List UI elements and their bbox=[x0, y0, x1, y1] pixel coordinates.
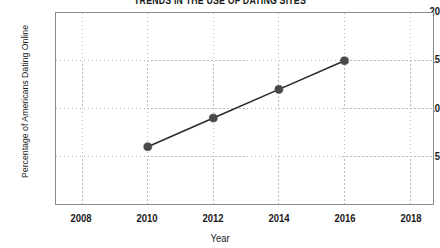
x-axis-tick-2010: 2010 bbox=[121, 212, 173, 224]
x-axis-label: Year bbox=[22, 232, 418, 244]
chart-figure: TRENDS IN THE USE OF DATING SITES Percen… bbox=[0, 0, 440, 248]
x-axis-tick-2016: 2016 bbox=[319, 212, 371, 224]
x-axis-tick-2018: 2018 bbox=[385, 212, 437, 224]
x-axis-tick-2008: 2008 bbox=[56, 212, 108, 224]
plot-area bbox=[55, 12, 434, 205]
x-axis-tick-2012: 2012 bbox=[187, 212, 239, 224]
x-axis-tick-2014: 2014 bbox=[253, 212, 305, 224]
data-series bbox=[56, 13, 433, 204]
y-axis-label: Percentage of Americans Dating Online bbox=[19, 9, 30, 193]
chart-title: TRENDS IN THE USE OF DATING SITES bbox=[26, 0, 413, 6]
